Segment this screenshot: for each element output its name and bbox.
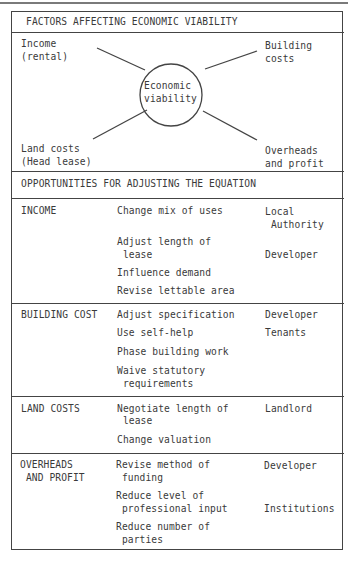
connector-building [205, 51, 257, 69]
land-label-1: Land costs [21, 143, 80, 156]
party: Tenants [265, 327, 306, 340]
factor-overheads-2: AND PROFIT [20, 472, 85, 485]
action: Revise method of [116, 459, 210, 472]
opportunities-title: OPPORTUNITIES FOR ADJUSTING THE EQUATION [21, 178, 256, 191]
factor-building-cost: BUILDING COST [21, 309, 97, 322]
action: parties [116, 534, 163, 547]
action: Phase building work [117, 346, 229, 359]
action: Change valuation [117, 434, 211, 447]
action: professional input [116, 503, 228, 516]
action: Reduce number of [116, 521, 210, 534]
building-label-1: Building [265, 40, 312, 53]
factor-income: INCOME [21, 205, 56, 218]
action: Influence demand [117, 267, 211, 280]
divider [11, 396, 344, 397]
action: lease [117, 249, 152, 262]
building-label-2: costs [265, 53, 294, 66]
center-label-1: Economic [144, 80, 191, 93]
income-label-1: Income [21, 38, 56, 51]
connector-land [93, 110, 147, 139]
action: Waive statutory [117, 365, 205, 378]
action: requirements [117, 378, 193, 391]
party: Developer [265, 309, 318, 322]
party: Local [265, 206, 294, 219]
party: Institutions [264, 503, 335, 516]
party: Developer [264, 460, 317, 473]
party: Authority [265, 219, 324, 232]
action: Revise lettable area [117, 285, 235, 298]
action: Change mix of uses [117, 205, 223, 218]
factor-land-costs: LAND COSTS [21, 403, 80, 416]
action: funding [116, 472, 163, 485]
action: lease [117, 415, 152, 428]
divider [11, 198, 344, 199]
divider [11, 303, 344, 304]
divider [11, 171, 344, 172]
party: Developer [265, 249, 318, 262]
action: Negotiate length of [117, 403, 229, 416]
action: Adjust length of [117, 236, 211, 249]
party: Landlord [265, 403, 312, 416]
overheads-label-2: and profit [265, 158, 324, 171]
action: Adjust specification [117, 309, 235, 322]
action: Use self-help [117, 327, 193, 340]
center-label-2: viability [144, 93, 197, 106]
connector-income [97, 48, 145, 70]
income-label-2: (rental) [21, 51, 68, 64]
action: Reduce level of [116, 490, 204, 503]
overheads-label-1: Overheads [265, 145, 318, 158]
connector-overheads [203, 111, 257, 140]
factor-overheads-1: OVERHEADS [20, 459, 73, 472]
divider [11, 453, 344, 454]
land-label-2: (Head lease) [21, 156, 92, 169]
